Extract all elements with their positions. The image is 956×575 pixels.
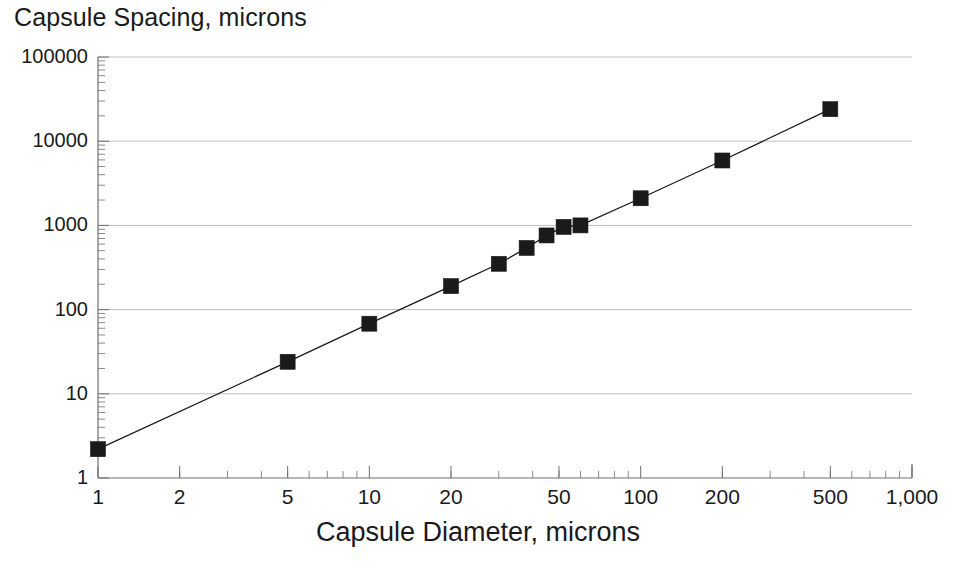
data-point-marker bbox=[519, 240, 534, 255]
data-point-marker bbox=[280, 354, 295, 369]
plot-area: 110100100010000100000 125102050100200500… bbox=[0, 0, 956, 575]
data-point-marker bbox=[573, 218, 588, 233]
data-point-marker bbox=[715, 153, 730, 168]
data-markers bbox=[91, 102, 838, 457]
y-tick-label: 10000 bbox=[32, 130, 88, 150]
data-point-marker bbox=[633, 191, 648, 206]
data-point-marker bbox=[539, 228, 554, 243]
y-tick-label: 1 bbox=[77, 467, 88, 487]
y-tick-label: 1000 bbox=[44, 214, 89, 234]
x-tick-label: 200 bbox=[672, 486, 772, 508]
data-point-marker bbox=[444, 279, 459, 294]
gridlines bbox=[98, 57, 912, 394]
x-tick-label: 1,000 bbox=[862, 486, 956, 508]
data-point-marker bbox=[91, 442, 106, 457]
data-point-marker bbox=[823, 102, 838, 117]
y-tick-label: 100 bbox=[55, 299, 88, 319]
x-tick-label: 2 bbox=[130, 486, 230, 508]
data-point-marker bbox=[491, 256, 506, 271]
data-point-marker bbox=[556, 219, 571, 234]
y-tick-label: 100000 bbox=[21, 46, 88, 66]
y-tick-label: 10 bbox=[66, 383, 88, 403]
x-axis-title: Capsule Diameter, microns bbox=[0, 515, 956, 549]
data-point-marker bbox=[362, 316, 377, 331]
chart-figure: Capsule Spacing, microns 110100100010000… bbox=[0, 0, 956, 575]
x-tick-label: 20 bbox=[401, 486, 501, 508]
